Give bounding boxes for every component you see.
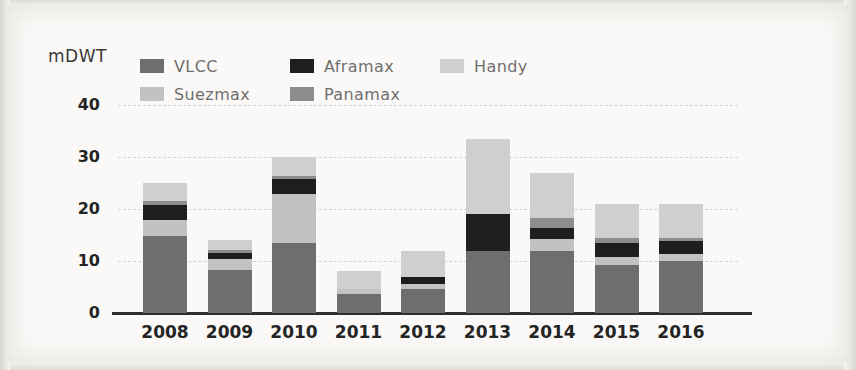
bar-segment-2008-vlcc (143, 236, 187, 313)
bar-segment-2013-handy (466, 139, 510, 214)
bar-segment-2016-suezmax (659, 254, 703, 261)
bar-2014[interactable] (530, 173, 574, 313)
bar-segment-2012-vlcc (401, 289, 445, 313)
bar-2016[interactable] (659, 204, 703, 313)
x-axis-tick-2011: 2011 (324, 322, 394, 342)
bar-segment-2010-vlcc (272, 243, 316, 313)
bar-segment-2010-suezmax (272, 194, 316, 243)
bar-segment-2008-suezmax (143, 220, 187, 236)
bar-2015[interactable] (595, 204, 639, 313)
bar-segment-2016-aframax (659, 241, 703, 255)
x-axis-tick-2008: 2008 (130, 322, 200, 342)
legend-swatch-handy-icon (440, 59, 464, 73)
chart-page: mDWT VLCCAframaxHandySuezmaxPanamax 0102… (0, 0, 856, 370)
bar-segment-2009-handy (208, 240, 252, 249)
bar-segment-2009-suezmax (208, 259, 252, 270)
gridline-40 (118, 105, 738, 106)
bar-segment-2014-suezmax (530, 239, 574, 250)
y-axis-tick-30: 30 (60, 147, 100, 166)
bar-segment-2008-aframax (143, 205, 187, 221)
bar-2010[interactable] (272, 157, 316, 313)
legend-swatch-vlcc-icon (140, 59, 164, 73)
legend-item-suezmax: Suezmax (140, 85, 290, 104)
bar-segment-2009-vlcc (208, 270, 252, 313)
bar-segment-2015-vlcc (595, 265, 639, 313)
legend-item-handy: Handy (440, 57, 560, 76)
gridline-20 (118, 209, 738, 210)
y-axis-tick-0: 0 (60, 303, 100, 322)
legend-swatch-panamax-icon (290, 87, 314, 101)
x-axis-tick-2015: 2015 (582, 322, 652, 342)
bar-segment-2013-aframax (466, 214, 510, 250)
bar-segment-2010-aframax (272, 179, 316, 195)
legend-label: Handy (474, 57, 528, 76)
x-axis-tick-2013: 2013 (453, 322, 523, 342)
legend-label: Panamax (324, 85, 400, 104)
chart-legend: VLCCAframaxHandySuezmaxPanamax (140, 52, 560, 108)
legend-item-panamax: Panamax (290, 85, 440, 104)
x-axis-tick-2014: 2014 (517, 322, 587, 342)
bar-segment-2011-vlcc (337, 294, 381, 313)
x-axis-tick-2009: 2009 (195, 322, 265, 342)
bar-segment-2015-handy (595, 204, 639, 238)
legend-item-aframax: Aframax (290, 57, 440, 76)
y-axis-tick-20: 20 (60, 199, 100, 218)
bar-segment-2015-aframax (595, 243, 639, 257)
bar-2009[interactable] (208, 240, 252, 313)
bar-segment-2014-vlcc (530, 251, 574, 313)
gridline-30 (118, 157, 738, 158)
bar-segment-2013-vlcc (466, 251, 510, 313)
bar-segment-2012-aframax (401, 277, 445, 284)
bar-segment-2015-suezmax (595, 257, 639, 264)
legend-item-vlcc: VLCC (140, 57, 290, 76)
legend-swatch-suezmax-icon (140, 87, 164, 101)
bar-segment-2012-handy (401, 251, 445, 277)
bar-segment-2014-handy (530, 173, 574, 218)
y-axis-tick-40: 40 (60, 95, 100, 114)
legend-swatch-aframax-icon (290, 59, 314, 73)
legend-label: Aframax (324, 57, 394, 76)
bar-2011[interactable] (337, 271, 381, 313)
bar-2008[interactable] (143, 183, 187, 313)
bar-segment-2016-vlcc (659, 261, 703, 313)
bar-2012[interactable] (401, 251, 445, 313)
legend-label: Suezmax (174, 85, 250, 104)
x-axis-tick-2012: 2012 (388, 322, 458, 342)
y-axis-tick-10: 10 (60, 251, 100, 270)
bar-segment-2014-panamax (530, 218, 574, 228)
y-axis-tick-labels: 010203040 (52, 0, 100, 370)
bar-segment-2010-handy (272, 157, 316, 176)
bar-segment-2016-handy (659, 204, 703, 238)
bar-2013[interactable] (466, 139, 510, 313)
x-axis-tick-2010: 2010 (259, 322, 329, 342)
bar-segment-2011-handy (337, 271, 381, 289)
x-axis-tick-2016: 2016 (646, 322, 716, 342)
bar-segment-2014-aframax (530, 228, 574, 239)
bar-segment-2008-handy (143, 183, 187, 201)
legend-label: VLCC (174, 57, 218, 76)
